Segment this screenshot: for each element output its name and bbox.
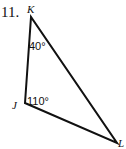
angle-k-value: 40° [29, 40, 46, 52]
triangle-jkl [0, 0, 126, 149]
angle-j-value: 110° [27, 95, 49, 107]
